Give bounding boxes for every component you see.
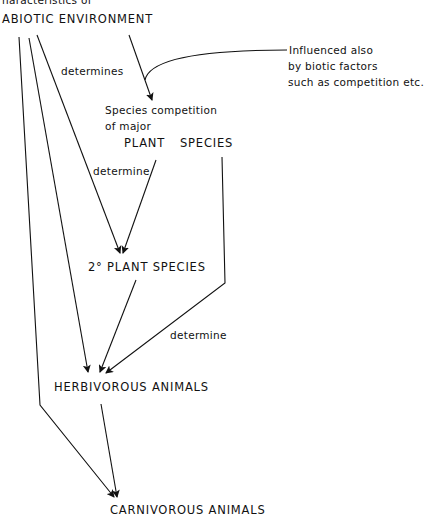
- annotation-line-2: by biotic factors: [288, 59, 378, 73]
- edge-biotic-influence: [145, 50, 287, 80]
- top-fragment-text: haracteristics of: [2, 0, 92, 7]
- node-competition-line-2: of major: [105, 119, 151, 133]
- edge-secondary-plant-to-herbivorous: [100, 280, 136, 372]
- annotation-line-1: Influenced also: [289, 43, 373, 57]
- node-carnivorous-animals: CARNIVOROUS ANIMALS: [110, 503, 266, 517]
- edge-label-determine-2: determine: [170, 328, 227, 342]
- node-herbivorous-animals: HERBIVOROUS ANIMALS: [54, 380, 209, 394]
- node-competition-line-1: Species competition: [105, 103, 217, 117]
- node-plant-species-a: PLANT: [124, 136, 165, 150]
- node-secondary-plant-species: 2° PLANT SPECIES: [88, 260, 206, 274]
- edge-abiotic-to-herbivorous: [29, 38, 88, 372]
- edge-label-determine-1: determine: [93, 164, 150, 178]
- node-abiotic-environment: ABIOTIC ENVIRONMENT: [2, 12, 153, 26]
- node-plant-species-b: SPECIES: [180, 136, 233, 150]
- annotation-line-3: such as competition etc.: [288, 75, 424, 89]
- edge-label-determines: determines: [61, 64, 124, 78]
- edge-abiotic-to-competition: [129, 35, 152, 100]
